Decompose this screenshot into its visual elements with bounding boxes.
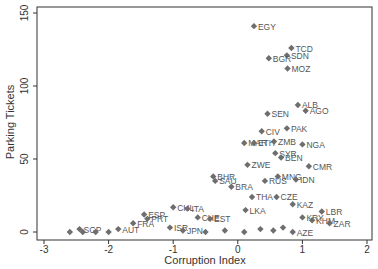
point-label: AZE (297, 228, 314, 238)
x-axis: -3-2-1012 (40, 240, 371, 255)
point-label: AUT (122, 225, 139, 235)
x-tick-label: -2 (104, 244, 113, 255)
point-label: CZE (281, 192, 298, 202)
point-label: FRA (137, 219, 154, 229)
point-label: ZAR (334, 219, 351, 229)
point-label: SEN (272, 109, 289, 119)
point-label: CMR (313, 162, 332, 172)
point-label: EGY (258, 22, 276, 32)
y-axis-label: Parking Tickets (4, 84, 16, 159)
point-label: SGP (84, 225, 102, 235)
point-label: KHM (316, 216, 335, 226)
y-tick-label: 150 (19, 4, 30, 21)
point-label: ZMB (278, 137, 296, 147)
y-tick-label: 100 (19, 77, 30, 94)
point-label: IDN (300, 175, 315, 185)
point-label: CIV (266, 127, 281, 137)
y-tick-label: 50 (19, 153, 30, 165)
point-label: BEN (285, 153, 302, 163)
x-tick-label: 2 (364, 244, 370, 255)
point-label: JPN (187, 226, 203, 236)
point-label: MOZ (292, 64, 311, 74)
point-label: RUS (269, 176, 287, 186)
scatter-chart: 050100150 -3-2-1012 EGYTCDSDNBGRMOZALBAG… (0, 0, 378, 269)
y-tick-label: 0 (19, 229, 30, 235)
point-label: NGA (306, 140, 325, 150)
point-label: LKA (250, 206, 266, 216)
point-label: PAK (291, 124, 308, 134)
point-label: THA (256, 192, 273, 202)
chart-canvas: 050100150 -3-2-1012 EGYTCDSDNBGRMOZALBAG… (0, 0, 378, 269)
point-label: ZWE (251, 160, 270, 170)
point-label: SAU (219, 176, 236, 186)
point-label: BRA (235, 182, 253, 192)
point-label: EST (214, 214, 231, 224)
x-tick-label: -3 (40, 244, 49, 255)
point-label: BGR (273, 54, 291, 64)
y-axis: 050100150 (19, 4, 37, 235)
point-label: SDN (291, 51, 309, 61)
x-tick-label: 1 (300, 244, 306, 255)
x-axis-label: Corruption Index (164, 254, 246, 266)
point-label: AGO (310, 106, 329, 116)
point-label: KAZ (297, 200, 314, 210)
plot-area (37, 7, 372, 240)
